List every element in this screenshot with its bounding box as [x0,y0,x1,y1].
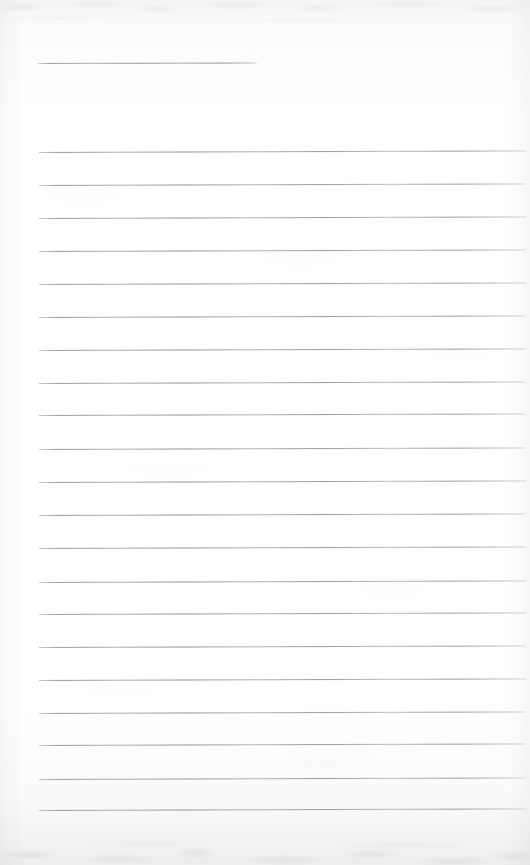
scanned-page [0,0,530,865]
scan-grain-bottom-edge [0,815,530,865]
ruled-line-16 [39,645,526,648]
ruled-line-21 [39,808,526,811]
ruled-line-18 [39,711,526,714]
ruled-line-8 [39,381,526,384]
ruled-line-4 [39,249,526,252]
ruled-line-11 [39,480,526,483]
ruled-line-3 [39,216,526,219]
ruled-line-17 [39,678,526,681]
ruled-line-9 [39,413,526,416]
ruled-line-6 [39,315,526,318]
ruled-line-15 [39,612,526,615]
top-short-rule [38,63,257,64]
ruled-line-12 [39,513,526,516]
ruled-line-5 [39,282,526,285]
scan-grain-body [0,0,530,865]
ruled-line-19 [39,743,526,746]
ruled-line-13 [39,546,526,549]
ruled-line-10 [39,447,526,450]
scan-grain-top-edge [0,0,530,34]
ruled-line-2 [39,183,526,186]
ruled-line-14 [39,580,526,583]
ruled-line-7 [39,348,526,351]
ruled-line-20 [39,777,526,780]
ruled-line-1 [39,150,526,153]
